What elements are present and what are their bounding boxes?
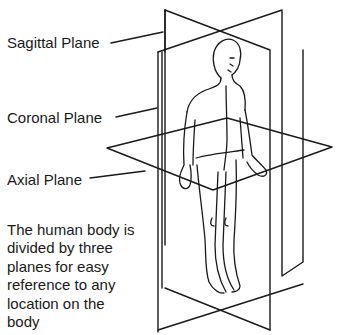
figure-right-arm-inner: [240, 118, 243, 158]
sagittal-plane-edge: [165, 10, 270, 330]
figure-right-leg: [223, 172, 234, 290]
coronal-plane: [158, 10, 281, 330]
coronal-plane-label: Coronal Plane: [7, 110, 102, 125]
sagittal-plane-label: Sagittal Plane: [7, 35, 100, 50]
figure-inner-legs: [215, 172, 226, 292]
axial-plane-label: Axial Plane: [7, 172, 82, 187]
figure-neck: [187, 78, 221, 112]
figure-torso-midline: [224, 86, 227, 170]
coronal-plane-edge: [158, 10, 303, 276]
description-line: The human body is: [7, 221, 167, 239]
description-line: divided by three: [7, 239, 167, 257]
description-line: location on the: [7, 295, 167, 313]
coronal-plane-bottom-edge: [158, 284, 303, 330]
figure-knees: [211, 218, 228, 226]
axial-leader-line: [90, 171, 145, 178]
coronal-leader-line: [116, 108, 157, 117]
figure-head: [213, 39, 240, 78]
figure-waist: [196, 150, 244, 158]
description-text: The human body is divided by three plane…: [7, 221, 167, 331]
figure-neck-right: [232, 75, 245, 110]
human-figure: [179, 39, 266, 293]
figure-right-leg-outer: [232, 160, 240, 292]
figure-right-arm: [245, 110, 267, 176]
sagittal-plane-bottom-edge: [165, 288, 270, 330]
description-line: reference to any: [7, 276, 167, 294]
description-line: body: [7, 313, 167, 331]
figure-face: [228, 58, 234, 72]
anatomical-planes-diagram: Sagittal Plane Coronal Plane Axial Plane…: [0, 0, 340, 335]
description-line: planes for easy: [7, 258, 167, 276]
sagittal-leader-line: [111, 32, 163, 43]
figure-left-leg: [197, 165, 224, 293]
